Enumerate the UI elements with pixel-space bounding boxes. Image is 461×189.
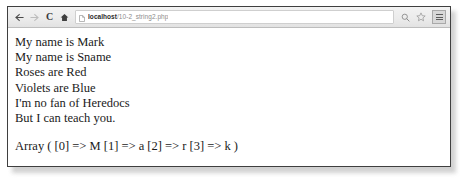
output-line: My name is Sname xyxy=(15,50,450,65)
forward-arrow-icon xyxy=(30,13,39,22)
url-display: localhost/10-2_string2.php xyxy=(88,13,168,21)
output-line: Violets are Blue xyxy=(15,81,450,96)
menu-button[interactable] xyxy=(432,10,446,24)
output-line: I'm no fan of Heredocs xyxy=(15,96,450,111)
reload-icon: C xyxy=(46,12,53,22)
zoom-button[interactable] xyxy=(399,11,412,24)
page-document-icon xyxy=(79,8,85,26)
page-content: My name is Mark My name is Sname Roses a… xyxy=(8,28,450,166)
magnifier-icon xyxy=(401,13,410,22)
reload-button[interactable]: C xyxy=(42,9,57,25)
browser-toolbar: C localhost/ xyxy=(8,7,450,28)
screenshot-page: C localhost/ xyxy=(0,0,461,189)
address-bar[interactable]: localhost/10-2_string2.php xyxy=(75,10,394,24)
toolbar-actions xyxy=(399,10,446,24)
forward-button[interactable] xyxy=(27,9,42,25)
hamburger-icon xyxy=(436,14,443,15)
star-icon xyxy=(416,12,426,22)
bookmark-button[interactable] xyxy=(414,11,427,24)
navigation-buttons: C xyxy=(12,9,72,25)
blank-line-spacer xyxy=(15,126,450,139)
home-icon xyxy=(60,13,69,22)
array-dump-line: Array ( [0] => M [1] => a [2] => r [3] =… xyxy=(15,139,450,154)
back-button[interactable] xyxy=(12,9,27,25)
home-button[interactable] xyxy=(57,9,72,25)
browser-window: C localhost/ xyxy=(7,6,451,167)
output-line: But I can teach you. xyxy=(15,111,450,126)
back-arrow-icon xyxy=(15,13,24,22)
output-line: My name is Mark xyxy=(15,35,450,50)
url-host: localhost xyxy=(88,13,117,20)
url-path: /10-2_string2.php xyxy=(117,13,168,20)
hamburger-icon xyxy=(436,19,443,20)
hamburger-icon xyxy=(436,17,443,18)
output-line: Roses are Red xyxy=(15,65,450,80)
